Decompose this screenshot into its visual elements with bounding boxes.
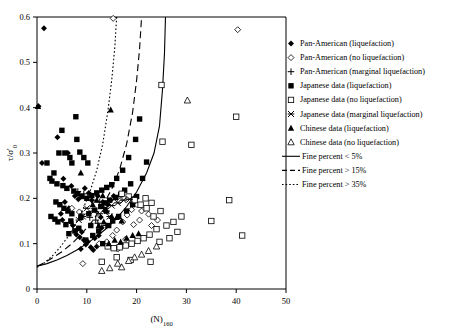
data-point-open-triangle: [114, 260, 120, 266]
data-point-filled-square: [56, 150, 61, 155]
data-point-filled-square: [94, 190, 99, 195]
data-point-filled-square: [128, 181, 133, 186]
data-point-open-square: [147, 232, 152, 237]
data-point-filled-square: [44, 160, 49, 165]
data-point-open-square: [189, 142, 194, 147]
data-point-open-square: [144, 206, 149, 211]
x-tick-label: 50: [282, 296, 291, 306]
data-point-open-square: [158, 208, 163, 213]
data-point-open-square: [129, 241, 134, 246]
data-point-open-diamond: [114, 227, 120, 233]
data-point-filled-diamond: [60, 176, 66, 182]
data-point-filled-square: [68, 218, 73, 223]
y-tick-label: 0.3: [19, 148, 30, 158]
data-point-open-square: [135, 238, 140, 243]
legend-label-9: Fine percent > 15%: [302, 166, 367, 175]
legend-label-2: Pan-American (marginal liquefaction): [300, 67, 425, 76]
legend-label-3: Japanese data (liquefaction): [300, 81, 392, 90]
data-point-open-square: [99, 259, 104, 264]
data-point-filled-square: [144, 159, 149, 164]
data-point-filled-triangle: [78, 170, 84, 176]
data-point-filled-square: [64, 186, 69, 191]
y-tick-label: 0.6: [19, 12, 30, 22]
data-point-open-square: [171, 219, 176, 224]
data-point-open-diamond: [131, 222, 137, 228]
data-point-filled-diamond: [41, 25, 47, 31]
chart-svg: 0102030405000.10.20.30.40.50.6(N)160τ/σ'…: [0, 0, 466, 335]
data-point-open-square: [151, 214, 156, 219]
data-point-open-square: [160, 139, 165, 144]
data-point-open-diamond: [110, 15, 116, 21]
data-point-open-square: [111, 246, 116, 251]
data-point-filled-square: [99, 187, 104, 192]
data-point-open-square: [167, 236, 172, 241]
data-point-filled-square: [74, 137, 79, 142]
data-point-open-square: [234, 114, 239, 119]
data-point-filled-square: [140, 176, 145, 181]
legend-label-1: Pan-American (no liquefaction): [300, 53, 404, 62]
data-point-open-diamond: [80, 261, 86, 267]
data-point-open-triangle: [99, 267, 105, 273]
data-point-open-square: [114, 255, 119, 260]
x-tick-label: 40: [232, 296, 241, 306]
figure-root: 0102030405000.10.20.30.40.50.6(N)160τ/σ'…: [0, 0, 466, 335]
legend-label-7: Chinese data (no liquefaction): [300, 138, 399, 147]
x-tick-label: 0: [35, 296, 39, 306]
data-point-open-square: [117, 245, 122, 250]
data-point-filled-square: [49, 178, 54, 183]
legend-filled-triangle-marker: [288, 125, 294, 131]
data-point-open-diamond: [137, 217, 143, 223]
data-point-filled-square: [85, 160, 90, 165]
data-point-open-square: [157, 239, 162, 244]
data-point-open-square: [179, 214, 184, 219]
legend-open-square-marker: [288, 97, 293, 102]
y-tick-label: 0.4: [19, 103, 30, 113]
data-point-filled-square: [78, 215, 83, 220]
y-tick-label: 0.1: [19, 239, 30, 249]
data-point-open-square: [141, 236, 146, 241]
data-point-filled-square: [62, 150, 67, 155]
data-point-open-square: [148, 259, 153, 264]
data-point-filled-square: [72, 228, 77, 233]
legend-label-8: Fine percent < 5%: [302, 152, 362, 161]
y-tick-label: 0.5: [19, 57, 30, 67]
data-point-filled-diamond: [54, 134, 60, 140]
data-point-filled-square: [67, 155, 72, 160]
data-point-filled-square: [90, 233, 95, 238]
legend-open-triangle-marker: [288, 139, 294, 145]
data-point-open-square: [119, 191, 124, 196]
data-point-filled-square: [88, 223, 93, 228]
data-point-filled-square: [51, 170, 56, 175]
x-tick-label: 30: [182, 296, 191, 306]
data-point-filled-square: [69, 160, 74, 165]
data-point-filled-square: [81, 155, 86, 160]
data-point-filled-square: [126, 155, 131, 160]
data-point-filled-square: [133, 137, 138, 142]
scatter-plot-figure: 0102030405000.10.20.30.40.50.6(N)160τ/σ'…: [0, 0, 466, 335]
data-point-filled-square: [89, 193, 94, 198]
x-tick-label: 10: [83, 296, 92, 306]
data-point-filled-square: [83, 237, 88, 242]
data-point-open-square: [164, 223, 169, 228]
data-point-filled-square: [113, 195, 118, 200]
data-point-open-diamond: [129, 207, 135, 213]
data-point-filled-square: [120, 168, 125, 173]
legend-label-5: Japanese data (marginal liquefaction): [300, 110, 423, 119]
data-point-open-square: [159, 82, 164, 87]
data-point-open-square: [149, 200, 154, 205]
data-point-filled-square: [63, 222, 68, 227]
data-point-open-triangle: [145, 248, 151, 254]
x-tick-label: 20: [132, 296, 141, 306]
data-point-filled-square: [104, 185, 109, 190]
data-point-filled-diamond: [39, 160, 45, 166]
legend-label-10: Fine percent > 35%: [302, 180, 367, 189]
data-point-open-square: [239, 233, 244, 238]
data-point-filled-square: [77, 149, 82, 154]
data-point-open-triangle: [184, 97, 190, 103]
legend-label-6: Chinese data (liquefaction): [300, 124, 389, 133]
data-point-filled-square: [54, 181, 59, 186]
curve-dashed: [37, 17, 142, 266]
data-point-filled-triangle: [129, 232, 135, 238]
data-point-filled-square: [59, 128, 64, 133]
data-point-filled-square: [109, 182, 114, 187]
